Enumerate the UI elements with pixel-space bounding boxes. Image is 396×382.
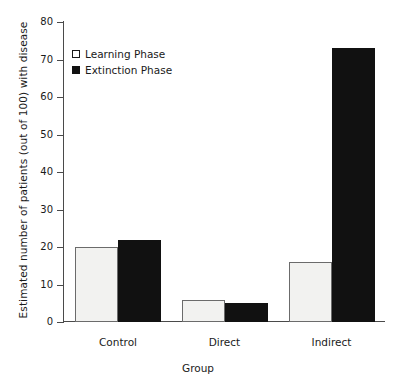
y-axis-tick-label: 10 — [7, 279, 53, 290]
bar-control-learning-phase — [75, 247, 118, 322]
y-axis-tick-label: 30 — [7, 204, 53, 215]
x-axis-label-indirect: Indirect — [269, 336, 395, 348]
y-axis-tick-label: 20 — [7, 241, 53, 252]
y-axis-tick — [57, 22, 63, 23]
y-axis-tick — [57, 60, 63, 61]
legend-item-extinction-phase: Extinction Phase — [72, 62, 172, 77]
y-axis-tick-label: 0 — [7, 316, 53, 327]
y-axis-tick-label: 60 — [7, 91, 53, 102]
y-axis-tick — [57, 247, 63, 248]
y-axis-tick-label: 40 — [7, 166, 53, 177]
bar-direct-learning-phase — [182, 300, 225, 323]
legend: Learning Phase Extinction Phase — [72, 46, 172, 78]
open-square-icon — [72, 50, 80, 58]
y-axis-tick — [57, 322, 63, 323]
y-axis-tick-label: 80 — [7, 16, 53, 27]
filled-square-icon — [72, 66, 80, 74]
bar-direct-extinction-phase — [225, 303, 268, 322]
legend-label-extinction-phase: Extinction Phase — [85, 64, 172, 76]
y-axis-tick — [57, 172, 63, 173]
x-axis-title: Group — [0, 362, 396, 374]
bar-indirect-extinction-phase — [332, 48, 375, 322]
y-axis-tick — [57, 135, 63, 136]
y-axis-tick — [57, 97, 63, 98]
bar-control-extinction-phase — [118, 240, 161, 323]
y-axis-tick — [57, 210, 63, 211]
y-axis-tick-label: 50 — [7, 129, 53, 140]
y-axis-tick — [57, 285, 63, 286]
legend-item-learning-phase: Learning Phase — [72, 46, 172, 61]
bar-chart: Estimated number of patients (out of 100… — [0, 0, 396, 382]
y-axis-tick-label: 70 — [7, 54, 53, 65]
legend-label-learning-phase: Learning Phase — [85, 48, 165, 60]
bar-indirect-learning-phase — [289, 262, 332, 322]
